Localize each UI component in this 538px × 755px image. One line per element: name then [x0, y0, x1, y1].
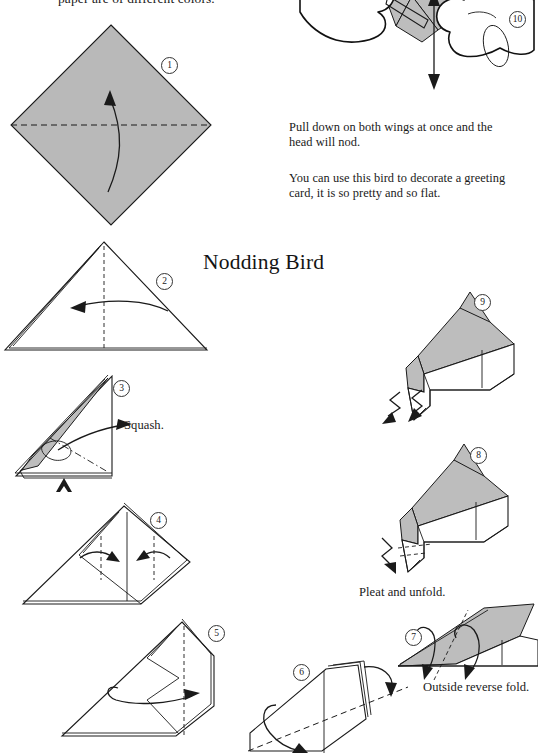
step-2-diagram [0, 236, 212, 361]
step-number-8: 8 [470, 447, 487, 464]
step8-pleat-arrowhead [384, 562, 396, 574]
step-5-diagram [58, 616, 218, 746]
step-8-diagram [374, 440, 534, 590]
step-4-diagram [18, 500, 208, 610]
step-9-diagram [378, 288, 538, 438]
step8-pleat-zigzag [382, 538, 392, 566]
step-number-1: 1 [161, 57, 178, 74]
top-cutoff-text: paper are of different colors. [58, 0, 298, 6]
push-arrow-marker [56, 478, 72, 492]
page-title: Nodding Bird [203, 250, 324, 275]
step-number-7: 7 [405, 629, 422, 646]
right-hand [437, 0, 534, 57]
step-number-9: 9 [474, 294, 491, 311]
step5-outline [62, 622, 214, 736]
caption-pull-down: Pull down on both wings at once and the … [289, 120, 519, 150]
step-number-3: 3 [113, 380, 130, 397]
step-number-2: 2 [156, 273, 173, 290]
caption-decorate: You can use this bird to decorate a gree… [289, 171, 524, 201]
step-number-10: 10 [509, 11, 526, 28]
step-10-diagram [300, 0, 534, 104]
step9-zigzag-1 [388, 392, 400, 416]
label-squash: Squash. [124, 418, 164, 433]
label-outside-reverse-fold: Outside reverse fold. [423, 680, 529, 695]
step-1-diagram [6, 20, 226, 235]
step-number-4: 4 [150, 512, 167, 529]
triangle-outer [5, 242, 207, 350]
label-pleat-and-unfold: Pleat and unfold. [359, 585, 446, 600]
step-number-5: 5 [208, 625, 225, 642]
step-number-6: 6 [293, 664, 310, 681]
step9-zigzag-1-head [382, 412, 396, 424]
nod-arrow-head-down [428, 74, 440, 90]
